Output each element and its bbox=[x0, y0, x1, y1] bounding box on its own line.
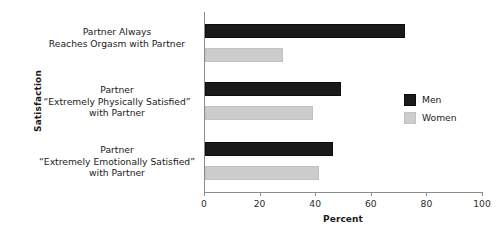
bar-men-1 bbox=[205, 82, 341, 96]
category-label-2-line-0: Partner bbox=[34, 144, 200, 156]
bar-men-0 bbox=[205, 24, 405, 38]
x-tick-1 bbox=[260, 192, 261, 196]
x-tick-label-2: 40 bbox=[295, 198, 335, 209]
category-label-0: Partner Always Reaches Orgasm with Partn… bbox=[34, 26, 200, 49]
bar-women-2 bbox=[205, 166, 319, 180]
x-tick-0 bbox=[204, 192, 205, 196]
y-axis-line bbox=[204, 12, 205, 192]
legend-item-men[interactable]: Men bbox=[404, 92, 500, 107]
legend: MenWomen bbox=[404, 92, 500, 128]
x-axis-line bbox=[204, 192, 482, 193]
legend-label-men: Men bbox=[422, 94, 441, 105]
bar-chart: Satisfaction Partner Always Reaches Orga… bbox=[0, 0, 502, 239]
x-tick-2 bbox=[315, 192, 316, 196]
bar-women-0 bbox=[205, 48, 283, 62]
x-tick-label-4: 80 bbox=[406, 198, 446, 209]
x-tick-3 bbox=[371, 192, 372, 196]
category-label-0-line-1: Reaches Orgasm with Partner bbox=[34, 38, 200, 50]
x-tick-label-0: 0 bbox=[184, 198, 224, 209]
category-label-1-line-0: Partner bbox=[34, 84, 200, 96]
x-tick-label-5: 100 bbox=[462, 198, 502, 209]
bar-women-1 bbox=[205, 106, 313, 120]
category-label-2-line-1: “Extremely Emotionally Satisfied” bbox=[34, 156, 200, 168]
legend-label-women: Women bbox=[422, 112, 457, 123]
x-axis-title: Percent bbox=[204, 214, 482, 224]
legend-item-women[interactable]: Women bbox=[404, 110, 500, 125]
category-label-1-line-1: “Extremely Physically Satisfied” bbox=[34, 96, 200, 108]
legend-swatch-men-icon bbox=[404, 94, 416, 106]
category-label-1: Partner “Extremely Physically Satisfied”… bbox=[34, 84, 200, 119]
x-tick-label-1: 20 bbox=[240, 198, 280, 209]
legend-swatch-women-icon bbox=[404, 112, 416, 124]
category-label-1-line-2: with Partner bbox=[34, 107, 200, 119]
category-label-2: Partner “Extremely Emotionally Satisfied… bbox=[34, 144, 200, 179]
category-label-2-line-2: with Partner bbox=[34, 167, 200, 179]
category-label-column: Partner Always Reaches Orgasm with Partn… bbox=[34, 12, 200, 192]
x-tick-5 bbox=[482, 192, 483, 196]
category-label-0-line-0: Partner Always bbox=[34, 26, 200, 38]
bar-men-2 bbox=[205, 142, 333, 156]
x-tick-label-3: 60 bbox=[351, 198, 391, 209]
x-tick-4 bbox=[426, 192, 427, 196]
